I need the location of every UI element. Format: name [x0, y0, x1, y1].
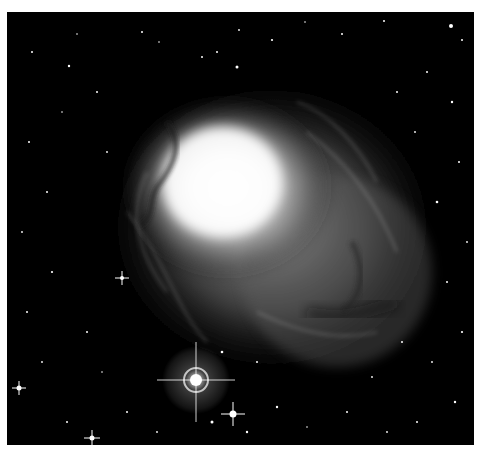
nebula-illustration: [7, 12, 474, 445]
nebula-photo: [7, 12, 474, 445]
